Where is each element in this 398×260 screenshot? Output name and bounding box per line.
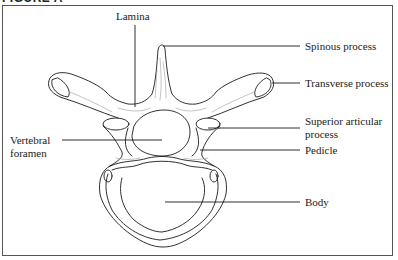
vertebral-body-inner — [121, 178, 205, 232]
label-transverse-process: Transverse process — [305, 77, 389, 89]
label-vertebral-foramen-line2: foramen — [10, 147, 47, 159]
left-pedicle — [103, 126, 122, 166]
label-pedicle: Pedicle — [305, 144, 337, 156]
label-body: Body — [305, 196, 329, 208]
label-superior-articular-process-line1: Superior articular — [305, 115, 382, 127]
left-transverse-facet — [52, 78, 70, 97]
vertebra-illustration — [0, 0, 398, 260]
vertebral-foramen-outline — [132, 110, 190, 156]
label-superior-articular-process-line2: process — [305, 128, 338, 140]
label-vertebral-foramen-line1: Vertebral — [10, 134, 50, 146]
right-pedicle — [202, 126, 220, 166]
label-spinous-process: Spinous process — [305, 40, 376, 52]
label-lamina: Lamina — [116, 10, 150, 22]
